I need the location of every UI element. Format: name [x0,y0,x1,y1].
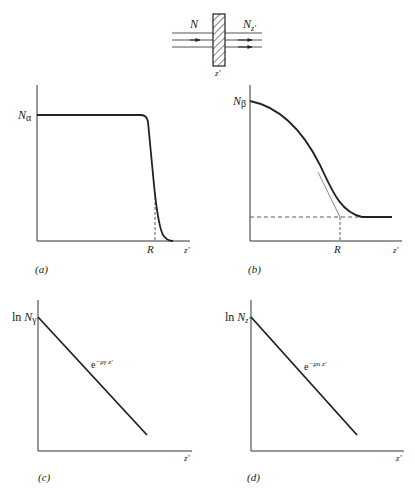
y-axis-label: ln Nγ [12,310,37,325]
curve-label: e−μγ z' [91,358,113,370]
x-axis-label: z' [183,453,191,463]
panel-tag: (d) [247,471,260,484]
y-axis-label: ln Nz' [225,310,250,325]
x-axis-label: z' [392,245,400,255]
gamma-line [38,317,147,435]
panel-c: ln Nγ e−μγ z' z' (c) [12,300,192,484]
panel-b: Nβ R z' (b) [232,85,402,276]
range-label: R [146,243,154,255]
tangent-extrapolation [318,172,340,217]
y-axis-label: Nβ [232,94,246,109]
absorber-slab [213,14,225,66]
neutron-line [251,317,357,435]
x-axis-label: z' [183,245,191,255]
y-axis-label: Nα [17,108,32,123]
alpha-curve [37,115,173,241]
absorber-schematic: N Nz' z' [172,14,262,78]
beta-curve [250,101,392,217]
panel-a: Nα R z' (a) [17,85,191,276]
transmitted-label: Nz' [242,17,256,33]
slab-thickness-label: z' [214,68,222,78]
figure-canvas: N Nz' z' Nα R z' (a) Nβ R z' (b) ln Nγ e… [0,0,415,496]
panel-tag: (c) [38,471,51,484]
incident-label: N [189,17,199,31]
panel-d: ln Nz' e−μn z' z' (d) [225,300,404,484]
x-axis-label: z' [395,453,403,463]
panel-tag: (a) [35,263,48,276]
curve-label: e−μn z' [304,360,327,372]
range-label: R [333,243,341,255]
panel-tag: (b) [248,263,261,276]
